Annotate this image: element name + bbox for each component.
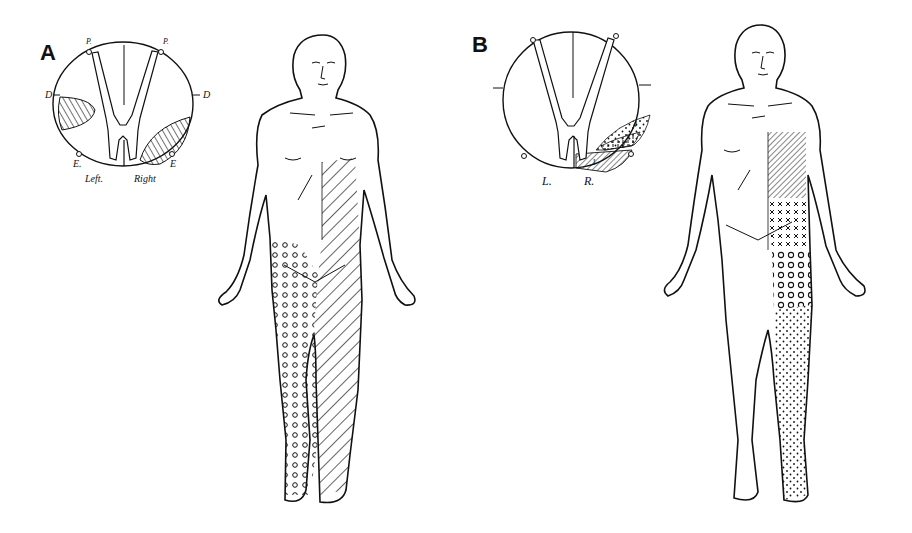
- label-left-side-b: L.: [541, 174, 552, 188]
- label-posterior-right: P.: [162, 37, 169, 46]
- panel-b-drawing: 4 3 2 1 L. R.: [456, 0, 912, 533]
- label-dorsal-right: D: [202, 89, 211, 100]
- label-zone-2: 2: [621, 141, 625, 150]
- label-right-side: Right: [133, 173, 156, 184]
- label-zone-4: 4: [633, 120, 637, 129]
- label-posterior-left: P.: [85, 37, 92, 46]
- label-right-side-b: R.: [583, 174, 594, 188]
- label-zone-1: 1: [592, 158, 596, 167]
- panel-b: B: [456, 0, 912, 533]
- panel-a-drawing: P. P. D D E. E Left. Right: [0, 0, 456, 533]
- spinal-cord-cross-section-b: 4 3 2 1 L. R.: [493, 32, 651, 188]
- body-figure-a: [219, 35, 415, 503]
- label-dorsal-left: D: [44, 89, 53, 100]
- body-figure-b: [664, 25, 865, 502]
- label-entry-left: E.: [72, 158, 82, 169]
- label-entry-right: E: [169, 158, 176, 169]
- label-left-side: Left.: [84, 173, 103, 184]
- label-zone-3: 3: [625, 133, 630, 142]
- spinal-cord-cross-section-a: P. P. D D E. E Left. Right: [44, 37, 211, 184]
- panel-a: A: [0, 0, 456, 533]
